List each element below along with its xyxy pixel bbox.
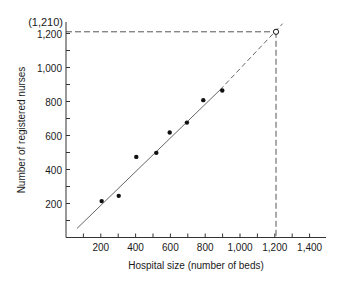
- regression-line-dashed: [220, 24, 283, 90]
- data-point: [154, 151, 158, 155]
- data-point: [168, 130, 172, 134]
- y-tick-label: 1,200: [37, 29, 62, 40]
- x-tick-label: 400: [127, 242, 144, 253]
- y-axis-label: Number of registered nurses: [16, 67, 27, 194]
- data-point: [134, 155, 138, 159]
- x-tick-label: 200: [92, 242, 109, 253]
- axes: [66, 22, 326, 238]
- y-tick-label: 600: [45, 131, 62, 142]
- x-tick-label: 1,200: [262, 242, 287, 253]
- x-tick-label: 1,400: [297, 242, 322, 253]
- x-tick-label: 800: [197, 242, 214, 253]
- y-tick-label: 400: [45, 165, 62, 176]
- x-tick-label: 1,000: [227, 242, 252, 253]
- prediction-marker: [273, 29, 278, 34]
- y-tick-label: 1,000: [37, 63, 62, 74]
- scatter-chart: 2004006008001,0001,2001,400 200400600800…: [0, 0, 345, 286]
- y-axis-ticks: 2004006008001,0001,200: [37, 29, 70, 221]
- data-point: [117, 194, 121, 198]
- data-point: [201, 98, 205, 102]
- prediction-guide-lines: [66, 32, 276, 238]
- x-tick-label: 600: [162, 242, 179, 253]
- prediction-label: (1,210): [28, 16, 63, 28]
- prediction-point: [273, 29, 278, 34]
- data-point: [99, 199, 103, 203]
- regression-line: [77, 24, 283, 229]
- x-axis-ticks: 2004006008001,0001,2001,400: [83, 234, 322, 253]
- data-point: [185, 120, 189, 124]
- data-point: [220, 88, 224, 92]
- x-axis-label: Hospital size (number of beds): [128, 260, 264, 271]
- y-tick-label: 800: [45, 97, 62, 108]
- y-tick-label: 200: [45, 199, 62, 210]
- regression-line-solid: [77, 90, 220, 229]
